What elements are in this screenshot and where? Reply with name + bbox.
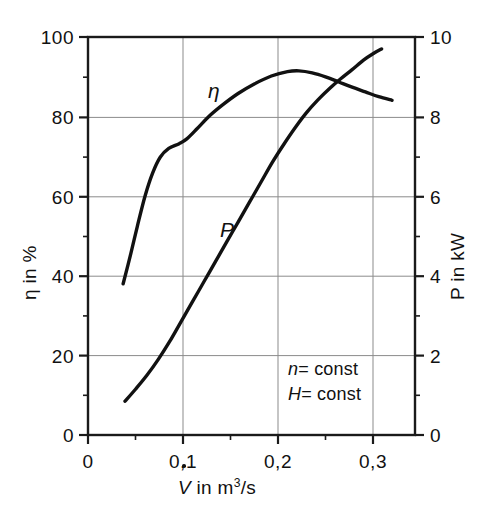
y-right-tick-label-2: 2	[430, 347, 441, 366]
x-tick-label-0-3: 0,3	[343, 452, 403, 471]
y-right-axis-title: P in kW	[448, 233, 467, 300]
y-tick-label-20: 20	[16, 347, 74, 366]
y-tick-label-0: 0	[16, 426, 74, 445]
curve-label-eta: η	[208, 80, 220, 101]
annotation-n-symbol: n	[288, 359, 298, 379]
y-right-tick-label-4: 4	[430, 267, 441, 286]
x-axis-title-symbol: V	[178, 478, 191, 497]
curve-eta	[123, 71, 392, 284]
x-axis-title-exponent: 3	[234, 476, 241, 490]
plot-frame	[88, 37, 415, 435]
x-tick-label-0-1: 0,1	[153, 452, 213, 471]
annotation-n-const: n= const	[288, 360, 358, 378]
annotation-h-symbol: H	[288, 384, 301, 404]
y-tick-label-100: 100	[16, 28, 74, 47]
x-axis-title: V in m3/s	[178, 478, 256, 497]
y-right-tick-label-6: 6	[430, 188, 441, 207]
annotation-n-value: = const	[298, 359, 358, 379]
annotation-h-const: H= const	[288, 385, 361, 403]
x-axis-title-unit: in m	[191, 477, 234, 498]
x-tick-label-0: 0	[58, 452, 118, 471]
curve-power	[125, 49, 382, 401]
y-tick-label-60: 60	[16, 188, 74, 207]
v-dot-accent	[182, 464, 186, 468]
annotation-h-value: = const	[301, 384, 361, 404]
y-axis-title: η in %	[20, 245, 39, 300]
gridlines	[88, 37, 415, 435]
x-tick-label-0-2: 0,2	[248, 452, 308, 471]
y-right-tick-label-0: 0	[430, 426, 441, 445]
y-tick-label-80: 80	[16, 108, 74, 127]
x-axis-title-tail: /s	[241, 477, 256, 498]
y-right-tick-label-10: 10	[430, 28, 452, 47]
y-right-tick-label-8: 8	[430, 108, 441, 127]
efficiency-power-chart: 100 80 60 40 20 0 10 8 6 4 2 0 0 0,1 0,2…	[0, 0, 477, 521]
curve-label-power: P	[220, 219, 234, 240]
